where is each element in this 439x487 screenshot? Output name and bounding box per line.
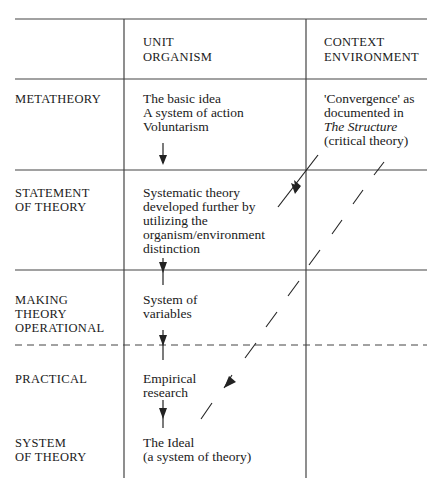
cell-text: System of	[143, 293, 197, 307]
cell-text: variables	[143, 307, 192, 321]
diagonal-arrow-icon	[278, 155, 318, 207]
cell-text: utilizing the	[143, 214, 208, 228]
row-label-metatheory: METATHEORY	[15, 92, 101, 106]
row-label-system: SYSTEM	[15, 436, 66, 450]
cell-text: The basic idea	[143, 92, 221, 106]
cell-text: (critical theory)	[324, 134, 408, 148]
row-label-operational-2: THEORY	[15, 307, 67, 321]
cell-text: The Ideal	[143, 436, 194, 450]
row-label-practical: PRACTICAL	[15, 372, 87, 386]
down-arrow-icon	[159, 400, 167, 428]
cell-text-italic: The Structure	[324, 120, 397, 134]
row-label-operational-3: OPERATIONAL	[15, 321, 104, 335]
dashed-arrow-head-icon	[224, 376, 236, 388]
diagram-grid	[0, 0, 439, 487]
row-label-statement: STATEMENT	[15, 186, 90, 200]
cell-text: Voluntarism	[143, 120, 209, 134]
cell-text: documented in	[324, 106, 404, 120]
cell-text: (a system of theory)	[143, 450, 251, 464]
column-header-context-line1: CONTEXT	[324, 35, 384, 49]
cell-text: organism/environment	[143, 228, 265, 242]
cell-text: research	[143, 386, 188, 400]
column-header-context-line2: ENVIRONMENT	[324, 50, 419, 64]
cell-text: Empirical	[143, 372, 196, 386]
row-label-statement-2: OF THEORY	[15, 200, 87, 214]
column-header-unit-line2: ORGANISM	[143, 50, 212, 64]
cell-text: developed further by	[143, 200, 255, 214]
row-label-operational: MAKING	[15, 293, 68, 307]
cell-text: A system of action	[143, 106, 244, 120]
column-header-unit-line1: UNIT	[143, 35, 174, 49]
down-arrow-icon	[159, 258, 167, 285]
cell-text: Systematic theory	[143, 186, 240, 200]
cell-text: 'Convergence' as	[324, 92, 414, 106]
cell-text: distinction	[143, 242, 200, 256]
down-arrow-icon	[159, 143, 167, 165]
row-label-system-2: OF THEORY	[15, 450, 87, 464]
